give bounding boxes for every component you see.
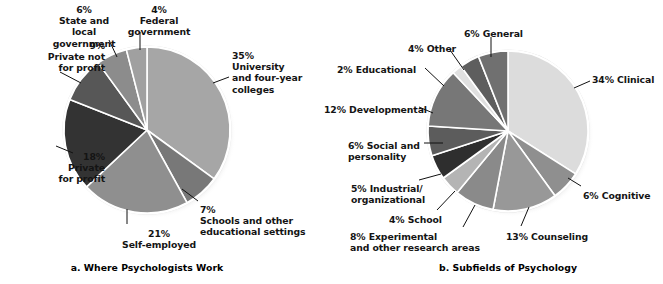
slice-label-school: 4% School: [389, 214, 442, 225]
slice-label-social-and-personality: 6% Social and personality: [348, 140, 420, 162]
pie-slices-layer: [64, 47, 588, 213]
slice-label-clinical: 34% Clinical: [592, 74, 654, 85]
leader-line: [463, 205, 475, 227]
slice-label-general: 6% General: [464, 28, 523, 39]
chart-caption-where-psychologists-work: a. Where Psychologists Work: [27, 262, 267, 273]
leader-line: [60, 72, 81, 83]
chart-caption-subfields-of-psychology: b. Subfields of Psychology: [388, 262, 628, 273]
slice-label-schools-and-other-educational-settings: 7% Schools and other educational setting…: [200, 204, 305, 238]
slice-label-counseling: 13% Counseling: [506, 231, 588, 242]
pie-chart-figure: 35% University and four-year colleges7% …: [0, 0, 663, 284]
leader-line: [425, 68, 444, 86]
slice-label-developmental: 12% Developmental: [324, 104, 427, 115]
slice-label-state-and-local-government: 6% State and local government: [43, 4, 125, 49]
slice-label-educational: 2% Educational: [337, 64, 416, 75]
slice-label-federal-government: 4% Federal government: [118, 4, 200, 38]
leader-line: [419, 174, 441, 180]
leader-line: [437, 191, 455, 210]
slice-label-experimental-and-other-research-areas: 8% Experimental and other research areas: [350, 231, 480, 253]
slice-label-other: 4% Other: [408, 43, 456, 54]
slice-label-private-for-profit: 18% Private for profit: [5, 151, 105, 185]
slice-label-industrial-organizational: 5% Industrial/ organizational: [351, 183, 425, 205]
slice-label-cognitive: 6% Cognitive: [583, 190, 651, 201]
slice-label-university-and-four-year-colleges: 35% University and four-year colleges: [232, 50, 302, 95]
slice-label-self-employed: 21% Self-employed: [118, 228, 200, 250]
